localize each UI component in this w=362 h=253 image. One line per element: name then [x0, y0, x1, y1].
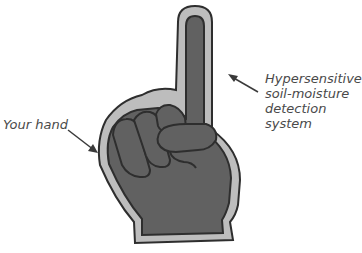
annotation-line: soil-moisture: [265, 86, 362, 101]
hand-annotation: Your hand: [3, 117, 68, 132]
arrow-to-finger: [228, 74, 258, 92]
sensor-annotation: Hypersensitive soil-moisture detection s…: [265, 71, 362, 131]
annotation-line: Hypersensitive: [265, 71, 362, 86]
annotation-line: detection: [265, 101, 362, 116]
arrow-to-hand: [68, 130, 98, 153]
annotation-line: Your hand: [3, 117, 68, 132]
annotation-line: system: [265, 116, 362, 131]
thumb: [158, 124, 217, 152]
